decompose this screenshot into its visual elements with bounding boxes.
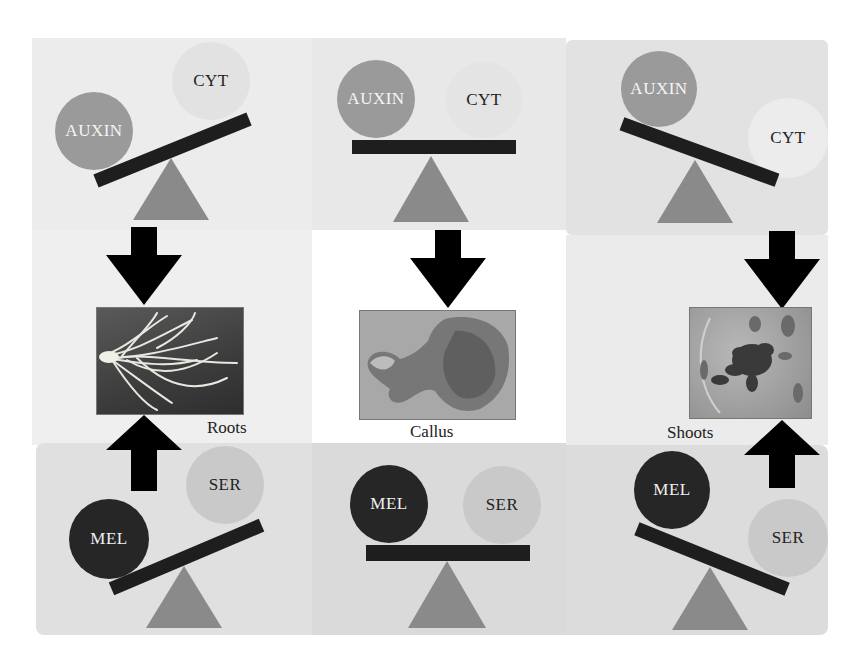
auxin-circle: AUXIN <box>337 60 415 138</box>
fulcrum-triangle <box>133 158 209 220</box>
mel-label: MEL <box>90 529 127 549</box>
fulcrum-triangle <box>672 567 748 630</box>
mel-circle: MEL <box>350 465 428 543</box>
fulcrum-triangle <box>657 160 733 223</box>
cyt-label: CYT <box>466 90 502 110</box>
arrow-down-icon <box>408 230 488 310</box>
auxin-label: AUXIN <box>65 121 122 141</box>
callus-photo <box>359 310 516 420</box>
auxin-label: AUXIN <box>347 89 404 109</box>
seesaw-beam <box>366 545 530 561</box>
ser-circle: SER <box>748 499 828 577</box>
auxin-label: AUXIN <box>630 79 687 99</box>
cyt-label: CYT <box>193 71 229 91</box>
ser-circle: SER <box>463 466 541 544</box>
fulcrum-triangle <box>408 561 486 628</box>
roots-label: Roots <box>207 418 247 438</box>
auxin-circle: AUXIN <box>55 92 133 170</box>
ser-label: SER <box>772 528 805 548</box>
cyt-circle: CYT <box>172 42 250 120</box>
mel-circle: MEL <box>69 499 149 579</box>
callus-label: Callus <box>410 422 453 442</box>
mel-label: MEL <box>653 480 690 500</box>
mel-circle: MEL <box>634 451 710 529</box>
arrow-down-icon <box>742 231 822 311</box>
ser-label: SER <box>209 475 242 495</box>
arrow-up-icon <box>742 418 822 498</box>
roots-photo <box>96 307 244 415</box>
arrow-down-icon <box>104 227 184 307</box>
auxin-circle: AUXIN <box>621 51 697 127</box>
shoots-label: Shoots <box>667 423 713 443</box>
cyt-circle: CYT <box>446 62 522 138</box>
arrow-up-icon <box>104 413 184 493</box>
fulcrum-triangle <box>393 156 469 222</box>
ser-circle: SER <box>186 446 264 524</box>
mel-label: MEL <box>370 494 407 514</box>
shoots-photo <box>689 307 812 419</box>
cyt-label: CYT <box>770 128 806 148</box>
fulcrum-triangle <box>146 566 222 628</box>
seesaw-beam <box>352 140 516 154</box>
ser-label: SER <box>486 495 519 515</box>
